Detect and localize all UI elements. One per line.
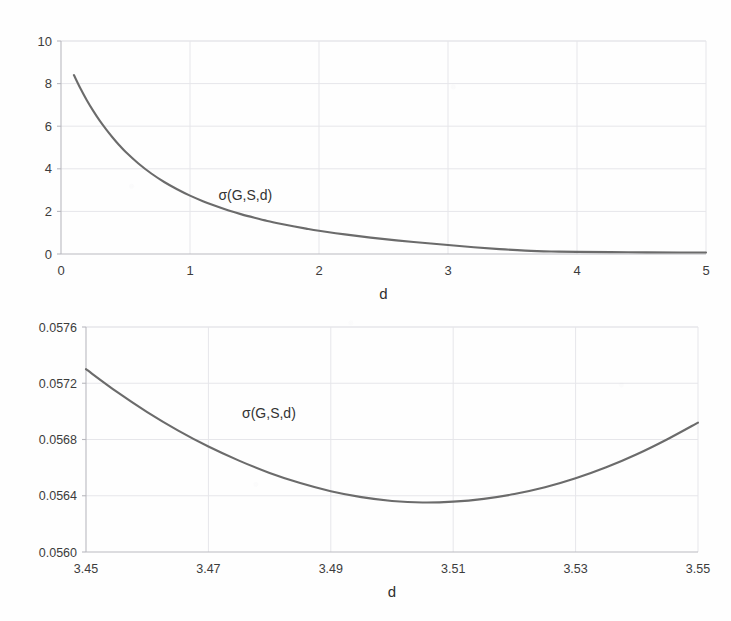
chart-top-xtick-labels: 012345 <box>57 263 709 278</box>
series-annotation-label: σ(G,S,d) <box>242 405 296 421</box>
chart-top-axes <box>57 41 706 254</box>
y-tick-label: 0.0576 <box>39 321 77 335</box>
y-tick-label: 0.0568 <box>39 433 77 447</box>
x-tick-label: 1 <box>186 263 193 278</box>
series-line <box>86 369 698 502</box>
chart-top-xaxis-title: d <box>379 285 387 302</box>
chart-bottom-annotations: σ(G,S,d) <box>242 405 296 421</box>
x-tick-label: 5 <box>702 263 709 278</box>
x-tick-label: 2 <box>315 263 322 278</box>
chart-bottom-ytick-labels: 0.05600.05640.05680.05720.0576 <box>39 321 77 560</box>
y-tick-label: 6 <box>45 119 52 134</box>
chart-bottom-gridlines <box>86 327 698 552</box>
chart-bottom: 0.05600.05640.05680.05720.0576 3.453.473… <box>0 310 731 621</box>
x-tick-label: 3 <box>444 263 451 278</box>
chart-bottom-xaxis-title: d <box>388 583 396 600</box>
chart-bottom-canvas: 0.05600.05640.05680.05720.0576 3.453.473… <box>0 310 731 621</box>
chart-top: 0246810 012345 σ(G,S,d) d <box>0 0 731 310</box>
x-tick-label: 3.49 <box>319 562 343 576</box>
x-tick-label: 3.51 <box>441 562 465 576</box>
chart-top-ytick-labels: 0246810 <box>38 34 52 262</box>
x-axis-title: d <box>388 583 396 600</box>
y-tick-label: 0.0572 <box>39 377 77 391</box>
x-tick-label: 3.55 <box>686 562 710 576</box>
chart-top-gridlines <box>61 41 706 254</box>
x-tick-label: 3.53 <box>563 562 587 576</box>
x-tick-label: 0 <box>57 263 64 278</box>
y-tick-label: 0.0560 <box>39 546 77 560</box>
y-tick-label: 0.0564 <box>39 489 77 503</box>
series-line <box>74 75 706 252</box>
y-tick-label: 0 <box>45 247 52 262</box>
x-tick-label: 3.47 <box>196 562 220 576</box>
chart-bottom-series <box>86 369 698 502</box>
y-tick-label: 8 <box>45 76 52 91</box>
chart-top-canvas: 0246810 012345 σ(G,S,d) d <box>0 0 731 310</box>
chart-bottom-xtick-labels: 3.453.473.493.513.533.55 <box>74 562 710 576</box>
figure-page: 0246810 012345 σ(G,S,d) d 0.05600.05640.… <box>0 0 731 621</box>
chart-top-series <box>74 75 706 252</box>
y-tick-label: 4 <box>45 161 52 176</box>
x-axis-title: d <box>379 285 387 302</box>
y-tick-label: 10 <box>38 34 52 49</box>
y-tick-label: 2 <box>45 204 52 219</box>
x-tick-label: 3.45 <box>74 562 98 576</box>
chart-top-annotations: σ(G,S,d) <box>218 187 272 203</box>
x-tick-label: 4 <box>573 263 580 278</box>
series-annotation-label: σ(G,S,d) <box>218 187 272 203</box>
